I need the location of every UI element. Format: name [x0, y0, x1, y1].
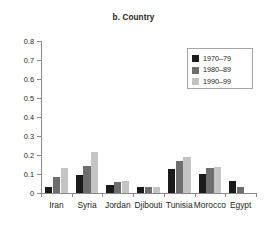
x-axis-tick [102, 193, 103, 197]
y-axis-tick-label: 0 [0, 189, 34, 198]
x-axis-category-label: Syria [78, 200, 97, 210]
x-axis-category-label: Djibouti [135, 200, 163, 210]
bar [114, 182, 121, 193]
bar [45, 187, 52, 193]
y-axis-tick-label: 0.4 [0, 113, 34, 122]
x-axis-tick [164, 193, 165, 197]
x-axis-category-label: Tunisia [166, 200, 193, 210]
bar-group [137, 41, 160, 193]
x-axis-tick [225, 193, 226, 197]
bar [168, 169, 175, 193]
x-axis-category-label: Iran [49, 200, 63, 210]
legend-swatch-icon [192, 55, 199, 62]
legend-label: 1990–99 [203, 78, 231, 85]
legend-swatch-icon [192, 78, 199, 85]
bar [53, 177, 60, 193]
x-axis-category-label: Jordan [105, 200, 131, 210]
bar [183, 157, 190, 193]
legend-item: 1990–99 [192, 76, 231, 87]
bar [237, 187, 244, 193]
legend-item: 1980–89 [192, 65, 231, 76]
y-axis-tick-label: 0.6 [0, 75, 34, 84]
x-axis-category-label: Morocco [194, 200, 226, 210]
bar [176, 161, 183, 193]
x-axis-category-label: Egypt [230, 200, 251, 210]
bar [214, 167, 221, 193]
x-axis-tick [133, 193, 134, 197]
legend-label: 1980–89 [203, 66, 231, 73]
legend-label: 1970–79 [203, 55, 231, 62]
y-axis-tick-label: 0.7 [0, 56, 34, 65]
bar [76, 175, 83, 193]
legend-swatch-icon [192, 67, 199, 74]
bar-group [45, 41, 68, 193]
x-axis-tick [72, 193, 73, 197]
bar [153, 187, 160, 193]
bar [145, 187, 152, 193]
y-axis-tick-label: 0.2 [0, 151, 34, 160]
chart-title: b. Country [0, 13, 267, 22]
bar [106, 185, 113, 193]
y-axis-tick-label: 0.3 [0, 132, 34, 141]
x-axis-tick [41, 193, 42, 197]
legend-item: 1970–79 [192, 53, 231, 64]
bar [122, 181, 129, 193]
bar-chart: b. Country 00.10.20.30.40.50.60.70.8 Ira… [0, 0, 267, 227]
bar [229, 181, 236, 193]
x-axis-tick [256, 193, 257, 197]
y-axis-tick-label: 0.8 [0, 37, 34, 46]
bar [199, 174, 206, 193]
bar [83, 166, 90, 193]
x-axis-tick [195, 193, 196, 197]
y-axis-tick-label: 0.5 [0, 94, 34, 103]
bar-group [106, 41, 129, 193]
bar [61, 168, 68, 193]
bar [137, 187, 144, 193]
bar-group [76, 41, 99, 193]
bar [91, 152, 98, 193]
y-axis-tick-label: 0.1 [0, 170, 34, 179]
legend: 1970–791980–891990–99 [187, 48, 253, 89]
bar [206, 168, 213, 193]
